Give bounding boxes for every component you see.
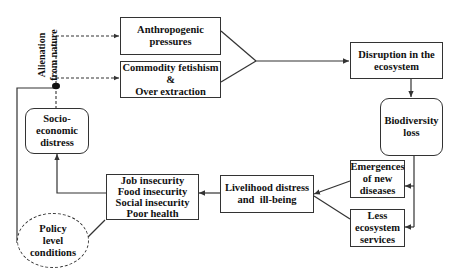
node-text: of new	[363, 173, 392, 185]
node-text: Job insecurity	[121, 175, 184, 186]
node-commodity-fetishism: Commodity fetishism & Over extraction	[120, 61, 221, 98]
node-socio-economic-distress: Socio- economic distress	[25, 108, 89, 154]
node-text: Commodity fetishism &	[121, 62, 220, 86]
node-livelihood-distress: Livelihood distress and ill-being	[220, 175, 314, 213]
node-text: Socio-	[43, 113, 70, 125]
node-text: loss	[403, 127, 419, 139]
node-text: Less	[368, 210, 388, 222]
node-text: ecosystem	[374, 61, 419, 73]
node-text: and ill-being	[238, 194, 297, 206]
label-line: Alienation	[36, 14, 48, 96]
node-text: economic	[36, 125, 78, 137]
label-line: from nature	[48, 14, 60, 96]
node-text: Biodiversity	[384, 115, 438, 127]
node-text: pressures	[149, 36, 191, 48]
node-text: Over extraction	[135, 86, 206, 98]
node-text: Food insecurity	[118, 186, 188, 197]
node-text: Emergences	[350, 161, 404, 173]
node-text: Anthropogenic	[137, 24, 204, 36]
node-text: ecosystem	[355, 222, 400, 234]
node-text: level	[43, 235, 63, 247]
node-disruption-ecosystem: Disruption in the ecosystem	[350, 42, 443, 79]
node-biodiversity-loss: Biodiversity loss	[380, 98, 443, 156]
node-text: Poor health	[126, 208, 178, 219]
node-new-diseases: Emergences of new diseases	[350, 160, 405, 198]
node-text: Livelihood distress	[225, 182, 309, 194]
node-anthropogenic-pressures: Anthropogenic pressures	[120, 17, 221, 55]
node-less-ecosystem-services: Less ecosystem services	[350, 209, 405, 247]
alienation-label: Alienation from nature	[36, 14, 66, 96]
node-text: Policy	[39, 223, 66, 235]
node-text: services	[360, 234, 395, 246]
node-text: conditions	[30, 247, 76, 259]
node-text: distress	[40, 137, 74, 149]
node-text: Disruption in the	[358, 49, 434, 61]
node-insecurities: Job insecurity Food insecurity Social in…	[106, 174, 199, 220]
node-text: diseases	[360, 185, 396, 197]
node-policy-level-conditions: Policy level conditions	[17, 213, 89, 268]
node-text: Social insecurity	[116, 197, 190, 208]
